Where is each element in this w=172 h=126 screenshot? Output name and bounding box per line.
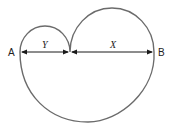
closed-curve [20, 8, 154, 122]
y-dimension-arrow [21, 50, 69, 55]
arrowhead-left-icon [71, 50, 77, 55]
segment-x-label: X [109, 39, 117, 50]
arrowhead-right-icon [63, 50, 69, 55]
segment-y-label: Y [42, 39, 49, 50]
arrowhead-left-icon [21, 50, 27, 55]
diagram-canvas: A B Y X [0, 0, 172, 126]
arrowhead-right-icon [147, 50, 153, 55]
point-a-label: A [8, 47, 15, 58]
x-dimension-arrow [71, 50, 153, 55]
point-b-label: B [158, 47, 165, 58]
